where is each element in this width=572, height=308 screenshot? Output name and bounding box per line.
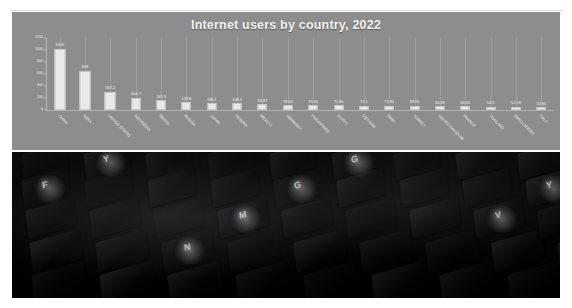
bar-group: 96.87MEXICO [250,38,275,110]
y-axis-tick-label: 0 [41,108,43,112]
top-divider [10,10,562,11]
keyboard-photo: YGFGYMVN [12,152,560,298]
bar [309,105,318,110]
y-axis-tick-label: 200 [37,96,43,100]
grid-line [491,38,492,110]
bar-value-label: 50.85 [536,102,546,106]
x-axis-category-label: THAILAND [488,114,504,130]
bar-group: 109.2NIGERIA [224,38,249,110]
bar-value-label: 54.5 [487,101,495,105]
bar-value-label: 1020 [55,43,64,47]
bar-group: 72.1VIETNAM [351,38,376,110]
key-backlight-glow [33,175,67,203]
x-axis-category-label: GERMANY [285,114,302,131]
y-axis-tick-label: 400 [37,84,43,88]
x-axis-category-label: PHILIPPINES [310,114,330,134]
bar-group: 1020CHINA [47,38,72,110]
x-axis-category-label: CHINA [57,114,68,125]
bar [182,102,191,110]
bar-value-label: 60.92 [460,101,470,105]
x-axis-category-label: ITALY [539,114,549,124]
bar-value-label: 165.3 [156,95,166,99]
x-axis-category-label: INDIA [82,114,92,124]
bar-group: 307.2UNITED STATES [98,38,123,110]
bar [385,106,394,110]
bar-group: 129.8RUSSIA [174,38,199,110]
bar [105,92,116,110]
bar-group: 66.39UNITED KINGDOM [427,38,452,110]
bar [435,106,444,110]
bar-value-label: 52.58 [511,101,521,105]
bar-group: 69.95TURKEY [402,38,427,110]
bar-group: 75.86EGYPT [326,38,351,110]
x-axis-category-label: UNITED STATES [108,114,132,138]
bar-value-label: 204.7 [131,92,141,96]
bar-value-label: 71.94 [384,100,394,104]
bar-chart-panel: Internet users by country, 2022 02004006… [12,12,560,150]
x-axis-category-label: NIGERIA [234,114,248,128]
bar-value-label: 72.1 [360,100,368,104]
x-axis-category-label: RUSSIA [184,114,197,127]
key-backlight-glow [285,175,319,203]
bar-value-label: 118.1 [207,98,216,102]
bar [334,105,343,110]
bar [511,107,520,110]
bars-container: 1020CHINA658INDIA307.2UNITED STATES204.7… [47,38,554,110]
x-axis-category-label: UNITED KINGDOM [437,114,464,141]
bar-group: 76.01PHILIPPINES [301,38,326,110]
bar [486,107,495,110]
bar [537,107,546,110]
chart-title: Internet users by country, 2022 [12,18,560,32]
y-axis: 020040060080010001200 [30,38,44,110]
bar [258,104,267,110]
bar [131,98,140,110]
bar-value-label: 66.39 [435,101,445,105]
chart-plot-area: 020040060080010001200 1020CHINA658INDIA3… [30,38,554,110]
bar [461,106,470,110]
screenshot-root: Internet users by country, 2022 02004006… [0,0,572,308]
x-axis-line [46,110,554,111]
bar-group: 52.58BANGLADESH [503,38,528,110]
bar [233,103,242,110]
x-axis-category-label: MEXICO [260,114,274,128]
bar-value-label: 307.2 [105,86,115,90]
bar-value-label: 76.01 [308,100,318,104]
bar-value-label: 658 [82,65,89,69]
x-axis-category-label: IRAN [386,114,395,123]
bar-group: 60.92FRANCE [453,38,478,110]
bar [359,106,368,110]
bar-group: 204.7INDONESIA [123,38,148,110]
bar-group: 54.5THAILAND [478,38,503,110]
y-axis-tick-label: 600 [37,72,43,76]
x-axis-category-label: FRANCE [463,114,477,128]
bar-group: 78.00GERMANY [275,38,300,110]
bar [80,71,91,110]
grid-line [516,38,517,110]
bar-value-label: 109.2 [232,98,242,102]
bar-value-label: 129.8 [182,97,192,101]
bar-group: 165.3BRAZIL [148,38,173,110]
bar-value-label: 69.95 [410,100,420,104]
bar [283,105,292,110]
x-axis-category-label: INDONESIA [133,114,151,132]
bar-value-label: 78.00 [283,100,293,104]
grid-line [541,38,542,110]
bar [157,100,166,110]
x-axis-category-label: VIETNAM [361,114,376,129]
x-axis-category-label: BRAZIL [158,114,170,126]
x-axis-category-label: TURKEY [412,114,426,128]
x-axis-category-label: JAPAN [209,114,220,125]
x-axis-category-label: BANGLADESH [513,114,535,136]
bar [207,103,216,110]
bar-group: 71.94IRAN [377,38,402,110]
bar-group: 658INDIA [72,38,97,110]
bar [410,106,419,110]
y-axis-tick-label: 1200 [35,36,43,40]
y-axis-tick-label: 1000 [35,48,43,52]
x-axis-category-label: EGYPT [336,114,348,126]
bar-group: 118.1JAPAN [199,38,224,110]
bar-value-label: 75.86 [334,100,344,104]
bar-group: 50.85ITALY [529,38,554,110]
bar [54,49,65,110]
bar-value-label: 96.87 [258,99,268,103]
